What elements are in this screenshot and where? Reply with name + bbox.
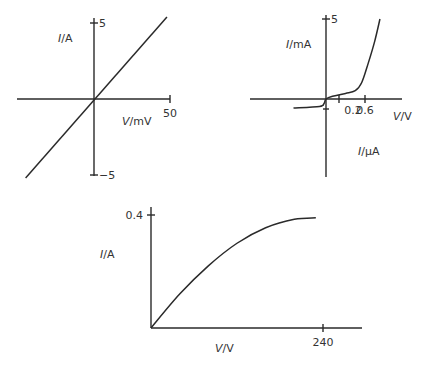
x-tick-label: 0.6 — [356, 104, 374, 117]
x-tick-label: 240 — [313, 336, 334, 349]
y-axis-label: I/A — [100, 248, 115, 261]
y-tick-label: 5 — [99, 17, 106, 30]
y-axis-negative-label: I/µA — [358, 145, 380, 158]
series-line — [26, 17, 167, 178]
y-tick-label: −5 — [99, 169, 115, 182]
x-axis-label: V/V — [215, 342, 234, 355]
x-axis-label: V/V — [393, 110, 412, 123]
y-tick-label: 0.4 — [126, 209, 144, 222]
y-axis-label: I/A — [58, 32, 73, 45]
y-axis-label: I/mA — [286, 38, 312, 51]
series-line — [151, 218, 316, 328]
graph-diode: 0.20.65 I/mA V/V I/µA — [250, 13, 412, 177]
ticks: 0.20.65 — [322, 13, 374, 117]
series-line — [294, 19, 380, 108]
x-axis-label: V/mV — [122, 115, 152, 128]
graph-ohmic: 505−5 I/A V/mV — [17, 17, 177, 182]
x-tick-label: 50 — [163, 107, 177, 120]
graph-filament-lamp: 2400.4 I/A V/V — [100, 207, 362, 355]
y-tick-label: 5 — [331, 13, 338, 26]
figure: 505−5 I/A V/mV 0.20.65 I/mA V/V I/µA 240… — [0, 0, 431, 379]
